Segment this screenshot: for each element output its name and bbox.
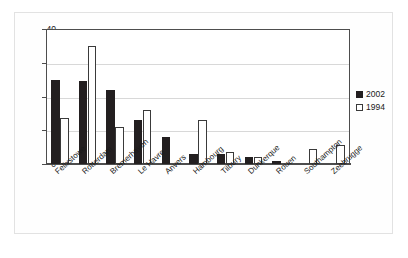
bar-group-dunkerque [239,29,267,164]
bar-2002-rouen [272,161,281,164]
bar-group-anvers [157,29,185,164]
bar-2002-le-havre [134,120,143,164]
bar-1994-tilbury [226,152,235,164]
bar-2002-felixstowe [51,80,60,164]
bar-2002-dunkerque [245,157,254,164]
bar-group-zeebrugge [322,29,350,164]
bar-1994-bremerhaven [115,127,124,164]
bar-group-bremerhaven [101,29,129,164]
chart-legend: 2002 1994 [356,88,404,114]
bar-group-le-havre [129,29,157,164]
legend-swatch-1994-icon [356,104,363,111]
bar-group-tilbury [212,29,240,164]
bar-1994-felixstowe [60,118,69,164]
legend-label-2002: 2002 [366,90,385,99]
bar-group-rotterdam [74,29,102,164]
bar-chart: 010203040 FelixstoweRotterdamBremerhaven… [0,0,408,258]
bar-1994-le-havre [143,110,152,164]
bar-group-southampton [295,29,323,164]
bar-2002-rotterdam [79,81,88,164]
bar-1994-southampton [309,149,318,164]
bar-1994-zeebrugge [336,145,345,164]
bar-1994-hambourg [198,120,207,164]
bar-2002-hambourg [189,154,198,164]
bar-1994-dunkerque [254,157,263,164]
bar-group-rouen [267,29,295,164]
legend-item-2002: 2002 [356,88,404,101]
bars-layer [46,29,350,164]
bar-2002-anvers [162,137,171,164]
bar-2002-tilbury [217,154,226,164]
bar-group-felixstowe [46,29,74,164]
bar-group-hambourg [184,29,212,164]
legend-item-1994: 1994 [356,101,404,114]
bar-1994-rotterdam [88,46,97,164]
legend-label-1994: 1994 [366,103,385,112]
bar-2002-bremerhaven [106,90,115,164]
legend-swatch-2002-icon [356,91,363,98]
